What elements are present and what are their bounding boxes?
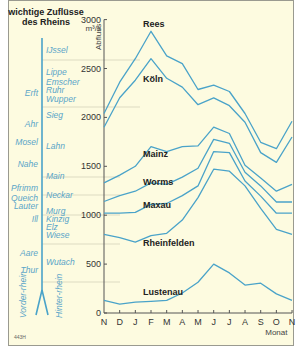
tributary-right-label: Lippe: [46, 67, 67, 77]
tributary-right-label: Neckar: [46, 190, 74, 200]
x-tick-label: F: [148, 317, 154, 327]
series-line-köln: [104, 59, 292, 163]
x-axis-title: Monat: [265, 328, 288, 337]
x-tick-label: N: [101, 317, 108, 327]
tributary-left-label: Aare: [19, 248, 38, 258]
tributary-left-label: Ahr: [24, 119, 39, 129]
x-tick-label: D: [116, 317, 123, 327]
series-line-mainz: [104, 127, 292, 191]
tributary-right-label: IJssel: [46, 45, 69, 55]
series-label: Lustenau: [143, 287, 183, 297]
x-tick-label: A: [179, 317, 185, 327]
tributary-left-label: Mosel: [15, 137, 39, 147]
footnote: 443H: [14, 334, 26, 340]
series-label: Köln: [143, 74, 163, 84]
series-line-rees: [104, 31, 292, 148]
tributary-left-label: Pfrimm: [11, 183, 38, 193]
discharge-chart: wichtige Zuflüssedes RheinsVorder-rheinH…: [0, 0, 299, 351]
x-tick-label: N: [289, 317, 296, 327]
y-tick-label: 2000: [81, 112, 101, 122]
x-tick-label: S: [258, 317, 264, 327]
tributary-left-label: Erft: [25, 88, 39, 98]
chart-title-line2: des Rheins: [22, 17, 70, 27]
y-tick-label: 1000: [81, 210, 101, 220]
x-tick-label: M: [163, 317, 171, 327]
rhine-source-fork: [36, 290, 48, 315]
vorderrhein-label: Vorder-rhein: [18, 271, 28, 318]
tributary-right-label: Wupper: [46, 94, 77, 104]
series-line-worms: [104, 139, 292, 202]
series-line-lustenau: [104, 264, 292, 304]
tributary-right-label: Lahn: [46, 141, 65, 151]
series-label: Rees: [143, 19, 165, 29]
x-tick-label: A: [242, 317, 248, 327]
hinterrhein-label: Hinter-rhein: [54, 273, 64, 318]
tributary-right-label: Sieg: [46, 110, 63, 120]
series-label: Maxau: [143, 200, 171, 210]
x-tick-label: J: [133, 317, 138, 327]
series-line-maxau: [104, 152, 292, 214]
tributary-left-label: Thur: [21, 265, 40, 275]
series-label: Mainz: [143, 149, 169, 159]
tributary-right-label: Wutach: [46, 257, 75, 267]
tributary-left-label: Nahe: [18, 159, 39, 169]
y-tick-label: 500: [86, 259, 101, 269]
series-label: Rheinfelden: [143, 238, 195, 248]
y-axis-title: Abfluss: [94, 24, 103, 50]
tributary-left-label: Ill: [32, 214, 39, 224]
y-tick-label: 2500: [81, 64, 101, 74]
x-tick-label: J: [227, 317, 232, 327]
x-tick-label: O: [273, 317, 280, 327]
x-tick-label: M: [194, 317, 202, 327]
tributary-right-label: Main: [46, 171, 65, 181]
series-label: Worms: [143, 177, 173, 187]
tributary-right-label: Wiese: [46, 230, 70, 240]
y-tick-label: 1500: [81, 161, 101, 171]
x-tick-label: J: [211, 317, 216, 327]
tributary-left-label: Lauter: [14, 201, 39, 211]
chart-title-line1: wichtige Zuflüsse: [7, 7, 84, 17]
